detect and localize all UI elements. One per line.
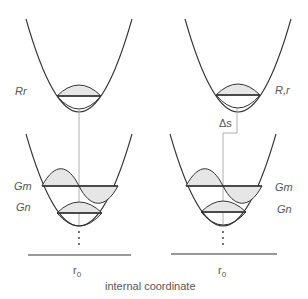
left-origin-label: r0 xyxy=(73,264,81,279)
displacement-label: Δs xyxy=(219,117,232,129)
x-axis-label: internal coordinate xyxy=(105,280,196,292)
right-Gm-label: Gm xyxy=(275,181,293,193)
left-Gn-label: Gn xyxy=(16,201,31,213)
left-upper-state-label: Rr xyxy=(15,85,27,97)
right-Gn-wavefunction xyxy=(201,201,246,225)
left-Gn-wavefunction xyxy=(57,202,102,226)
right-Gn-label: Gn xyxy=(277,203,292,215)
right-ellipsis-dots xyxy=(222,231,224,245)
left-upper-well xyxy=(26,19,132,112)
right-origin-label: r0 xyxy=(218,264,226,279)
left-Gm-wavefunction xyxy=(42,169,118,204)
potential-energy-diagram xyxy=(0,0,308,299)
right-upper-well xyxy=(185,19,291,112)
left-upper-wavefunction xyxy=(57,85,101,109)
left-origin-subscript: 0 xyxy=(77,270,81,279)
right-Gm-wavefunction xyxy=(186,169,262,204)
right-origin-subscript: 0 xyxy=(222,270,226,279)
right-upper-state-label: R,r xyxy=(275,84,290,96)
left-Gm-label: Gm xyxy=(14,180,32,192)
left-ellipsis-dots xyxy=(78,231,80,245)
